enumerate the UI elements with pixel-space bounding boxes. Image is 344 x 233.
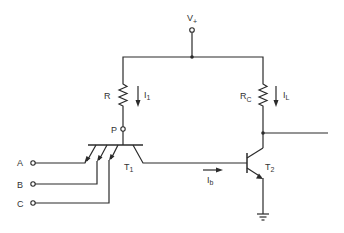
current-ib-arrow: Ib [203,168,223,187]
input-a-label: A [17,158,23,168]
resistor-rc: RC [240,82,267,107]
supply-rail [123,57,263,82]
current-il-label: IL [283,90,290,101]
node-p: P [111,125,125,145]
node-p-label: P [111,125,117,135]
input-b[interactable]: B [17,161,97,190]
supply-terminal: V+ [187,13,197,59]
resistor-r-label: R [104,91,111,101]
input-b-label: B [17,180,23,190]
transistor-t1: T1 [85,145,173,173]
input-c-label: C [17,199,24,209]
transistor-t2: T2 [247,148,275,214]
supply-label: V+ [187,13,197,25]
current-i1-label: I1 [144,90,151,101]
input-a[interactable]: A [17,158,86,168]
current-ib-label: Ib [207,175,214,186]
current-i1-arrow: I1 [136,86,151,107]
current-il-arrow: IL [274,86,290,107]
circuit-diagram: V+ R I1 P T1 A [0,0,344,233]
ground-icon [257,214,269,220]
resistor-rc-label: RC [240,91,252,103]
transistor-t2-label: T2 [265,162,275,173]
transistor-t1-label: T1 [124,162,134,173]
resistor-r: R [104,82,127,107]
